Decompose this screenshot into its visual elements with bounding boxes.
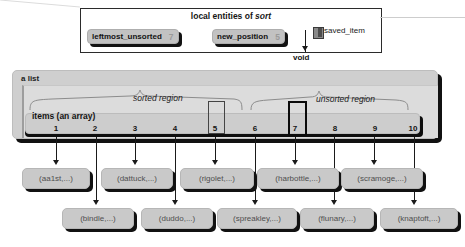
unsorted-region-caption: unsorted region: [316, 94, 375, 104]
slot-highlight-7: [288, 101, 307, 136]
connector-arrow-10: [411, 200, 417, 205]
array-index-3: 3: [128, 124, 142, 133]
sorted-region-caption: sorted region: [133, 93, 183, 103]
connector-arrow-8: [331, 200, 337, 205]
decorative-hairline-right: [380, 17, 465, 18]
variable-value: 5: [275, 32, 280, 42]
connector-arrow-9: [371, 160, 377, 165]
item-chip-9[interactable]: (scramoge,...): [341, 168, 423, 189]
array-index-8: 8: [328, 124, 342, 133]
item-chip-3[interactable]: (dattuck,...): [101, 168, 173, 189]
variable-chip-new-position[interactable]: new_position 5: [212, 29, 285, 44]
item-chip-1[interactable]: (aa1st,...): [22, 168, 90, 189]
connector-arrow-4: [172, 200, 178, 205]
array-index-6: 6: [248, 124, 262, 133]
local-entities-title: local entities of sort: [81, 11, 381, 21]
local-entities-panel: local entities of sort leftmost_unsorted…: [80, 8, 382, 53]
array-index-10: 10: [406, 124, 420, 133]
variable-name: leftmost_unsorted: [92, 32, 162, 41]
connector-2: [96, 137, 97, 203]
local-entities-title-prefix: local entities of: [191, 11, 255, 21]
items-array-label: items (an array): [32, 111, 95, 121]
variable-chip-leftmost-unsorted[interactable]: leftmost_unsorted 7: [87, 29, 179, 44]
item-chip-4[interactable]: (duddo,...): [141, 208, 213, 229]
slot-highlight-5: [208, 101, 225, 134]
saved-item-label: saved_item: [324, 26, 365, 35]
saved-item-reference[interactable]: saved_item: [313, 26, 379, 44]
connector-arrow-7: [292, 160, 298, 165]
variable-value: 7: [169, 32, 174, 42]
decorative-hairline-left: [0, 0, 80, 7]
void-label: void: [293, 53, 309, 62]
connector-arrow-6: [252, 200, 258, 205]
array-index-9: 9: [368, 124, 382, 133]
connector-arrow-3: [132, 160, 138, 165]
array-index-4: 4: [168, 124, 182, 133]
item-chip-7[interactable]: (harbottle,...): [257, 168, 339, 189]
item-chip-5[interactable]: (rigolet,...): [180, 168, 254, 189]
item-chip-2[interactable]: (bindle,...): [62, 208, 134, 229]
connector-arrow-1: [53, 160, 59, 165]
local-entities-title-routine: sort: [255, 11, 271, 21]
connector-6: [255, 137, 256, 203]
diagram-canvas: local entities of sort leftmost_unsorted…: [0, 0, 465, 247]
connector-arrow-5: [212, 160, 218, 165]
connector-4: [175, 137, 176, 203]
variable-name: new_position: [217, 32, 268, 41]
item-chip-10[interactable]: (knaptoft,...): [380, 208, 458, 229]
array-index-1: 1: [49, 124, 63, 133]
saved-item-arrow-head: [302, 46, 308, 51]
item-chip-8[interactable]: (flunary,...): [300, 208, 374, 229]
array-index-2: 2: [88, 124, 102, 133]
list-object-label: a list: [21, 74, 39, 83]
item-chip-6[interactable]: (spreakley,...): [217, 208, 297, 229]
connector-arrow-2: [93, 200, 99, 205]
value-swatch-icon: [313, 27, 324, 39]
